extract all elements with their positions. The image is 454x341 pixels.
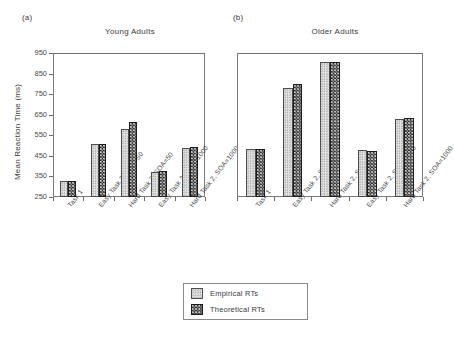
y-tick-label: 550 [34,131,47,139]
bar-empirical [395,119,405,197]
y-tick-label: 350 [34,172,47,180]
bar-theoretical [190,147,198,197]
y-tick-label: 650 [34,111,47,119]
bar-theoretical [293,84,303,197]
panel-b-title: Older Adults [265,27,405,36]
bar-empirical [283,88,293,197]
y-axis-title-a: Mean Reaction Time (ms) [13,84,22,180]
bar-empirical [358,150,368,197]
y-axis-a: 250350450550650750850950 [28,53,53,197]
x-tick [175,197,176,201]
bar-empirical [151,172,159,197]
bar-theoretical [404,118,414,197]
bar-empirical [91,144,99,197]
legend-item-empirical[interactable]: Empirical RTs [191,288,258,299]
y-tick-label: 750 [34,90,47,98]
x-tick [423,197,424,201]
bar-theoretical [68,181,76,197]
bar-empirical [60,181,68,197]
bar-theoretical [99,144,107,197]
bar-empirical [182,148,190,197]
x-tick [114,197,115,201]
y-tick-label: 450 [34,152,47,160]
legend-swatch-empirical [191,288,203,299]
panel-a-title: Young Adults [60,27,200,36]
legend-label-theoretical: Theoretical RTs [210,305,265,314]
bar-theoretical [159,171,167,197]
y-tick-label: 250 [34,193,47,201]
x-tick [349,197,350,201]
x-tick [205,197,206,201]
bar-empirical [246,149,256,197]
bar-theoretical [367,151,377,197]
legend-label-empirical: Empirical RTs [210,289,258,298]
bar-theoretical [330,62,340,197]
x-tick [386,197,387,201]
y-tick-label: 850 [34,70,47,78]
x-tick [144,197,145,201]
legend: Empirical RTs Theoretical RTs [183,283,308,320]
legend-item-theoretical[interactable]: Theoretical RTs [191,304,265,315]
bar-empirical [320,62,330,197]
x-tick [237,197,238,201]
panel-a-tag: (a) [22,13,32,22]
x-tick [311,197,312,201]
bar-theoretical [129,122,137,197]
x-tick [274,197,275,201]
y-tick-label: 950 [34,49,47,57]
panel-b-tag: (b) [233,13,243,22]
bar-theoretical [256,149,266,197]
legend-swatch-theoretical [191,304,203,315]
x-tick [53,197,54,201]
bar-empirical [121,129,129,198]
x-tick [83,197,84,201]
